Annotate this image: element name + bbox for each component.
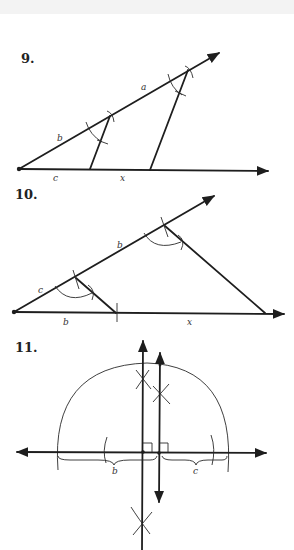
segment-2 (165, 226, 265, 313)
vertical-line-2 (159, 353, 160, 502)
upper-ray (14, 196, 214, 312)
arc-intersection-mark (153, 384, 170, 404)
label-b-ray: b (117, 240, 123, 250)
intersection-point (157, 451, 161, 455)
segment-1 (90, 116, 110, 169)
label-x: x (187, 317, 192, 327)
label-c: c (53, 173, 58, 183)
brace-c (162, 456, 227, 465)
figure-9: 9. b a c x (17, 51, 268, 183)
label-a: a (141, 82, 146, 92)
right-angle-mark (143, 443, 152, 452)
construction-arc (211, 435, 214, 465)
figure-11: 11. b c (15, 340, 266, 550)
intersection-point (159, 364, 162, 367)
segment-2 (150, 70, 188, 170)
figure-number: 9. (21, 51, 35, 66)
figure-number: 11. (15, 340, 38, 355)
base-ray (19, 169, 268, 171)
intersection-point (141, 450, 145, 454)
figure-10: 10. c b b x (12, 187, 284, 327)
segment-1 (76, 278, 116, 313)
label-c: c (193, 466, 198, 476)
construction-tick (97, 140, 108, 144)
right-angle-mark (160, 443, 168, 452)
label-x: x (120, 173, 125, 183)
label-b-base: b (63, 317, 69, 327)
figure-number: 10. (15, 187, 38, 202)
geometry-constructions: 9. b a c x 10. (0, 0, 294, 550)
label-b: b (57, 133, 63, 143)
base-ray (14, 312, 284, 314)
vertical-line-1 (142, 341, 143, 550)
upper-ray (19, 53, 219, 169)
construction-arc (104, 437, 107, 463)
label-b: b (112, 466, 118, 476)
label-c: c (38, 285, 43, 295)
